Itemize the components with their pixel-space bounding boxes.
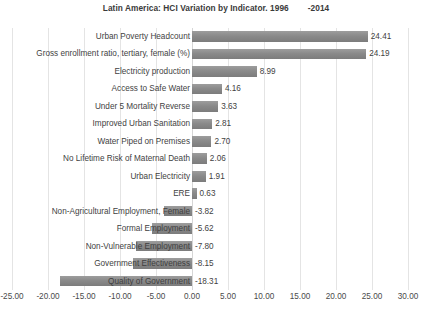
x-tick-label: -10.00 <box>108 292 131 301</box>
value-label: -7.80 <box>195 238 214 255</box>
bar[interactable] <box>192 66 257 77</box>
category-label: Improved Urban Sanitation <box>0 115 190 132</box>
category-label: Government Effectiveness <box>0 255 190 272</box>
category-label: Urban Poverty Headcount <box>0 28 190 45</box>
x-tick-label: -15.00 <box>72 292 95 301</box>
x-tick-label: 5.00 <box>220 292 236 301</box>
x-tick-label: -5.00 <box>147 292 166 301</box>
bar[interactable] <box>192 136 211 147</box>
value-label: 8.99 <box>260 63 276 80</box>
category-label: Quality of Government <box>0 273 190 290</box>
bar[interactable] <box>192 31 368 42</box>
value-label: 2.81 <box>215 115 231 132</box>
value-label: -18.31 <box>195 273 218 290</box>
bar[interactable] <box>192 188 197 199</box>
value-label: -3.82 <box>195 203 214 220</box>
value-label: 4.16 <box>225 80 241 97</box>
category-label: Water Piped on Premises <box>0 133 190 150</box>
category-label: No Lifetime Risk of Maternal Death <box>0 150 190 167</box>
x-tick-label: -20.00 <box>36 292 59 301</box>
bar-chart: Latin America: HCI Variation by Indicato… <box>0 0 432 319</box>
bar[interactable] <box>192 119 212 130</box>
category-label: Gross enrollment ratio, tertiary, female… <box>0 45 190 62</box>
category-label: Non-Vulnerable Employment <box>0 238 190 255</box>
value-label: -5.62 <box>195 220 214 237</box>
x-tick-label: -25.00 <box>0 292 23 301</box>
category-label: Formal Employment <box>0 220 190 237</box>
bar[interactable] <box>192 171 206 182</box>
value-label: 24.19 <box>369 45 390 62</box>
category-label: Access to Safe Water <box>0 80 190 97</box>
bar[interactable] <box>192 49 366 60</box>
value-label: 1.91 <box>209 168 225 185</box>
x-tick-label: 20.00 <box>326 292 347 301</box>
value-label: -8.15 <box>195 255 214 272</box>
bar[interactable] <box>192 84 222 95</box>
bar[interactable] <box>192 101 218 112</box>
x-tick-label: 30.00 <box>398 292 419 301</box>
value-label: 2.06 <box>210 150 226 167</box>
chart-title: Latin America: HCI Variation by Indicato… <box>0 3 432 13</box>
value-label: 0.63 <box>200 185 216 202</box>
category-label: ERE <box>0 185 190 202</box>
x-tick-label: 15.00 <box>290 292 311 301</box>
category-label: Non-Agricultural Employment, Female <box>0 203 190 220</box>
x-axis-tick-labels: -25.00-20.00-15.00-10.00-5.000.005.0010.… <box>12 292 408 306</box>
x-tick-label: 0.00 <box>184 292 200 301</box>
value-label: 24.41 <box>371 28 392 45</box>
category-label: Electricity production <box>0 63 190 80</box>
bar[interactable] <box>192 153 207 164</box>
value-label: 2.70 <box>214 133 230 150</box>
category-label: Urban Electricity <box>0 168 190 185</box>
x-tick-label: 25.00 <box>362 292 383 301</box>
category-label: Under 5 Mortality Reverse <box>0 98 190 115</box>
x-tick-label: 10.00 <box>254 292 275 301</box>
gridline <box>408 28 409 290</box>
value-label: 3.63 <box>221 98 237 115</box>
